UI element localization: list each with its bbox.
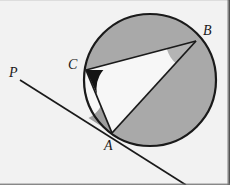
geometry-canvas — [0, 0, 230, 185]
geometry-figure: B C A P — [0, 0, 230, 185]
frame-edge-top — [0, 0, 230, 1]
vertex-label-C: C — [68, 58, 77, 72]
vertex-label-P: P — [9, 66, 18, 80]
frame-edge-bottom — [0, 183, 230, 185]
frame-edge-right — [227, 0, 230, 185]
vertex-label-A: A — [104, 139, 113, 153]
vertex-label-B: B — [203, 24, 212, 38]
